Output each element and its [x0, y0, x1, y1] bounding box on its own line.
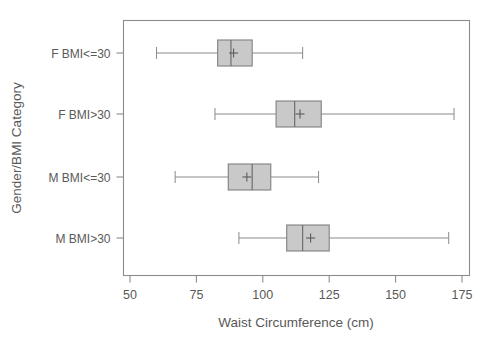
y-category-label: F BMI<=30	[51, 47, 111, 61]
x-tick-label: 100	[252, 288, 273, 302]
y-category-label: M BMI<=30	[48, 171, 110, 185]
y-category-label: M BMI>30	[55, 232, 110, 246]
x-axis-title: Waist Circumference (cm)	[218, 315, 374, 330]
boxplot-chart: 5075100125150175 F BMI<=30F BMI>30M BMI<…	[0, 0, 493, 343]
y-category-label: F BMI>30	[58, 108, 111, 122]
x-tick-label: 175	[452, 288, 473, 302]
x-tick-label: 50	[123, 288, 137, 302]
x-tick-label: 150	[385, 288, 406, 302]
chart-canvas: 5075100125150175 F BMI<=30F BMI>30M BMI<…	[0, 0, 493, 343]
x-tick-label: 75	[189, 288, 203, 302]
x-tick-label: 125	[319, 288, 340, 302]
y-axis-title: Gender/BMI Category	[9, 82, 24, 214]
